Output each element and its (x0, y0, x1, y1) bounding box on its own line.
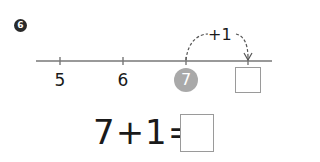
label-5: 5 (55, 70, 66, 90)
jump-label: +1 (208, 25, 232, 44)
equation-answer-box[interactable] (180, 114, 214, 152)
jump-arc-right (236, 34, 248, 58)
highlighted-number-7: 7 (174, 68, 198, 92)
number-line-answer-box[interactable] (235, 67, 261, 93)
label-6: 6 (118, 70, 129, 90)
jump-arc-left (186, 34, 208, 60)
